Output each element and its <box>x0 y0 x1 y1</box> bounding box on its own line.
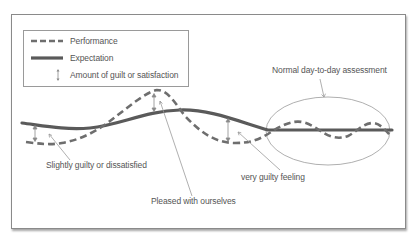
legend-item-expectation: Expectation <box>24 51 113 65</box>
legend: Performance Expectation Amount of guilt … <box>23 30 189 87</box>
dashed-line-icon <box>30 34 64 48</box>
legend-label-amount: Amount of guilt or satisfaction <box>70 70 178 80</box>
legend-item-performance: Performance <box>24 34 118 48</box>
gap-arrow-pleased <box>152 94 156 112</box>
annotation-normal-assessment: Normal day-to-day assessment <box>272 65 387 75</box>
annotation-slightly-guilty: Slightly guilty or dissatisfied <box>46 160 147 170</box>
double-arrow-icon <box>30 68 64 82</box>
expectation-line <box>22 110 392 130</box>
solid-line-icon <box>30 51 64 65</box>
gap-arrow-very-guilty <box>226 119 230 142</box>
annotation-very-guilty: very guilty feeling <box>241 172 305 182</box>
legend-label-performance: Performance <box>70 36 118 46</box>
legend-item-amount: Amount of guilt or satisfaction <box>24 68 178 82</box>
performance-line <box>26 90 390 144</box>
annotation-pleased: Pleased with ourselves <box>151 196 236 206</box>
legend-label-expectation: Expectation <box>70 53 113 63</box>
gap-arrow-slight <box>33 126 37 142</box>
